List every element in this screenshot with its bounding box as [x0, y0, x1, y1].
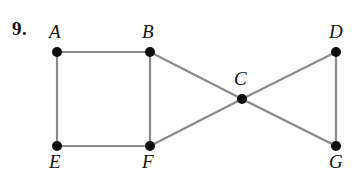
graph-vertex-a — [52, 47, 62, 57]
graph-vertex-label-a: A — [47, 21, 61, 42]
graph-vertex-label-d: D — [328, 21, 343, 42]
graph-vertex-label-f: F — [141, 151, 154, 172]
graph-vertex-b — [145, 47, 155, 57]
graph-edge-f-c — [150, 99, 242, 146]
graph-vertex-c — [237, 94, 247, 104]
figure-page: 9. ABCDEFG — [0, 0, 364, 175]
graph-vertex-d — [331, 47, 341, 57]
graph-vertex-layer — [52, 47, 341, 151]
graph-vertex-label-g: G — [329, 151, 343, 172]
graph-vertex-label-b: B — [142, 21, 154, 42]
graph-vertex-e — [52, 141, 62, 151]
graph-vertex-label-e: E — [48, 151, 61, 172]
graph-edge-layer — [57, 52, 336, 146]
graph-vertex-label-c: C — [234, 68, 247, 89]
graph-edge-b-c — [150, 52, 242, 99]
graph-label-layer: ABCDEFG — [47, 21, 343, 172]
graph-edge-c-d — [242, 52, 336, 99]
graph-vertex-g — [331, 141, 341, 151]
graph-figure: ABCDEFG — [0, 0, 364, 175]
graph-edge-c-g — [242, 99, 336, 146]
graph-vertex-f — [145, 141, 155, 151]
